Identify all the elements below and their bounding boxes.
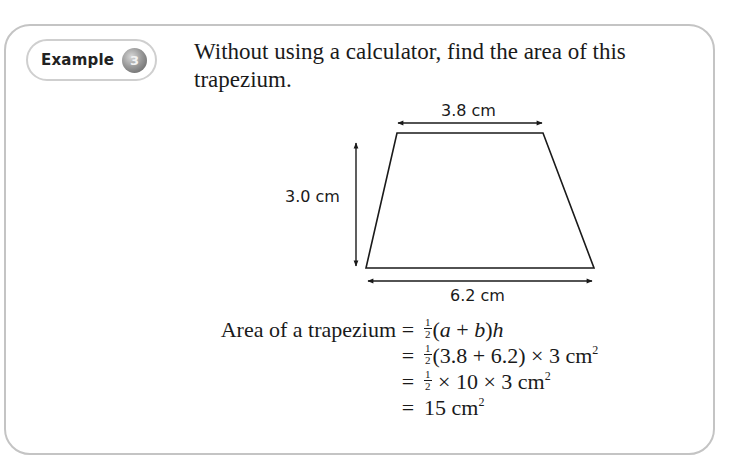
half-fraction: 12 — [424, 343, 432, 366]
formula-lhs: Area of a trapezium — [193, 317, 398, 343]
trapezium-shape — [366, 133, 594, 268]
working-row-2: = 12(3.8 + 6.2) × 3 cm2 — [193, 343, 598, 369]
formula-rhs: 12(a + b)h — [418, 317, 504, 343]
working-row-1: Area of a trapezium = 12(a + b)h — [193, 317, 598, 343]
final-answer: 15 cm2 — [418, 395, 484, 421]
height-label: 3.0 cm — [285, 187, 340, 206]
simplify-step: 12 × 10 × 3 cm2 — [418, 369, 551, 395]
equals-sign: = — [398, 317, 418, 343]
working-row-3: = 12 × 10 × 3 cm2 — [193, 369, 598, 395]
bottom-side-label: 6.2 cm — [450, 286, 505, 305]
working-steps: Area of a trapezium = 12(a + b)h = 12(3.… — [193, 317, 598, 421]
half-fraction: 12 — [424, 317, 432, 340]
half-fraction: 12 — [424, 369, 432, 392]
equals-sign: = — [398, 343, 418, 369]
working-row-4: = 15 cm2 — [193, 395, 598, 421]
equals-sign: = — [398, 369, 418, 395]
equals-sign: = — [398, 395, 418, 421]
substitution-step: 12(3.8 + 6.2) × 3 cm2 — [418, 343, 598, 369]
top-side-label: 3.8 cm — [441, 101, 496, 120]
